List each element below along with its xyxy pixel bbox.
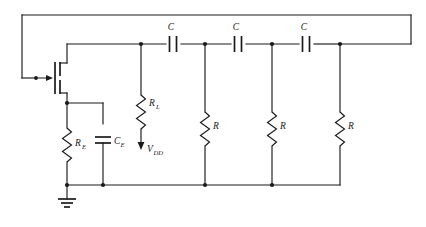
gate-input-arrow-icon — [46, 75, 53, 81]
re-resistor-zigzag — [63, 128, 72, 162]
node-gnd-ce — [101, 183, 105, 187]
rl-label-sub: L — [155, 103, 160, 110]
cap3-label: C — [301, 22, 308, 32]
node-gnd-r2 — [270, 183, 274, 187]
r3-resistor-zigzag — [336, 112, 345, 146]
schematic-canvas: C C C R L V DD R E — [0, 0, 426, 227]
re-label-sub: E — [81, 143, 86, 150]
r2-label: R — [279, 121, 286, 131]
rl-resistor-zigzag — [137, 95, 146, 129]
r2-resistor-zigzag — [268, 112, 277, 146]
r1-resistor-zigzag — [201, 112, 210, 146]
r1-label: R — [212, 121, 219, 131]
vdd-supply-arrow-icon — [138, 142, 145, 150]
node-gnd-r1 — [203, 183, 207, 187]
circuit-diagram: C C C R L V DD R E — [0, 0, 426, 227]
vdd-label-sub: DD — [153, 149, 164, 156]
re-label: R — [74, 138, 81, 148]
ce-label-sub: E — [120, 141, 125, 148]
cap1-label: C — [168, 22, 175, 32]
cap2-label: C — [233, 22, 240, 32]
r3-label: R — [347, 121, 354, 131]
rl-label: R — [148, 98, 155, 108]
